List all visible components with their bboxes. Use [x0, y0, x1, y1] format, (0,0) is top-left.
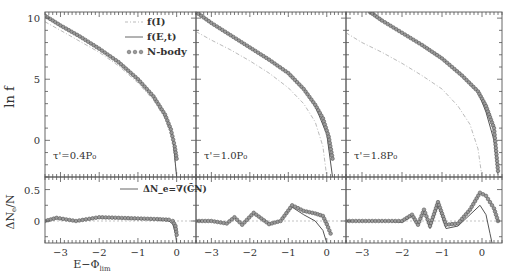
x-tick-label: 0: [479, 247, 485, 258]
x-tick-label: −2: [395, 247, 410, 258]
x-tick-label: −1: [131, 247, 146, 258]
panel-label: τ'=1.8P₀: [354, 150, 397, 161]
legend-nbody-swatch: [127, 50, 143, 54]
nbody-marker: [169, 128, 173, 132]
x-tick-label: −2: [242, 247, 257, 258]
y-tick-label: 10: [27, 13, 40, 24]
nbody-marker: [91, 217, 95, 221]
nbody-marker: [170, 131, 174, 135]
panel-label: τ'=0.4P₀: [53, 150, 96, 161]
y-tick-label: 0.5: [24, 185, 40, 196]
nbody-marker: [329, 232, 333, 236]
y-tick-label: 0: [34, 135, 40, 146]
bottom-plot-area: [194, 203, 332, 243]
legend-nbody-label: N-body: [147, 46, 188, 57]
nbody-marker: [175, 157, 179, 161]
nbody-marker: [175, 233, 179, 237]
legend-delta-label: ΔN_e=∇(C̃N): [143, 183, 207, 194]
figure: −3−2−10051000.5τ'=0.4P₀−3−2−10τ'=1.0P₀−3…: [0, 0, 507, 274]
nbody-marker: [84, 218, 88, 222]
nbody-marker: [77, 219, 81, 223]
y-tick-label: 5: [34, 74, 40, 85]
x-tick-label: −1: [281, 247, 296, 258]
nbody-marker: [171, 138, 175, 142]
nbody-marker: [94, 216, 98, 220]
panel-label: τ'=1.0P₀: [204, 150, 247, 161]
x-tick-label: 0: [173, 247, 179, 258]
x-tick-label: −2: [92, 247, 107, 258]
bottom-plot-area: [344, 191, 500, 243]
nbody-marker: [331, 157, 335, 161]
y-axis-label-top: ln f: [2, 85, 17, 108]
nbody-marker: [81, 218, 85, 222]
y-axis-label-bottom: ΔNe/N: [4, 194, 18, 229]
x-tick-label: −3: [355, 247, 370, 258]
panel-3: −3−2−10τ'=1.8P₀: [344, 10, 502, 258]
nbody-marker: [496, 169, 500, 173]
legend-fEt-label: f(E,t): [147, 31, 177, 43]
panels: −3−2−10051000.5τ'=0.4P₀−3−2−10τ'=1.0P₀−3…: [24, 10, 502, 258]
nbody-marker: [171, 134, 175, 138]
x-tick-label: −1: [435, 247, 450, 258]
y-tick-label: 0: [34, 216, 40, 227]
fEt-curve: [45, 218, 177, 243]
x-tick-label: −3: [204, 247, 219, 258]
bottom-plot-area: [43, 215, 178, 243]
nbody-marker: [172, 141, 176, 145]
x-axis-label: E−Φlim: [73, 258, 111, 273]
nbody-marker: [87, 217, 91, 221]
x-tick-label: 0: [324, 247, 330, 258]
legend-fI-label: f(I): [147, 16, 165, 27]
x-tick-label: −3: [53, 247, 68, 258]
panel-2: −3−2−10τ'=1.0P₀: [194, 10, 346, 258]
nbody-marker: [167, 218, 171, 222]
nbody-marker: [74, 219, 78, 223]
